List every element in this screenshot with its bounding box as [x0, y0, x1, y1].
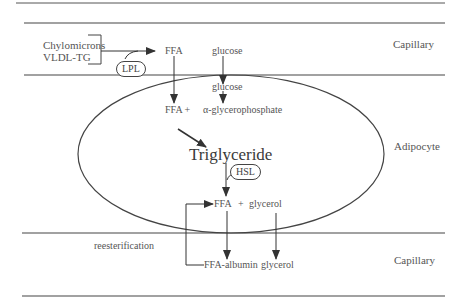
node-glycerol-released: glycerol: [249, 198, 282, 210]
node-ffa-capillary: FFA: [165, 45, 183, 57]
node-glycerol-out: glycerol: [261, 259, 294, 271]
source-chylomicrons: Chylomicrons: [43, 39, 105, 51]
node-glucose-capillary: glucose: [212, 45, 243, 57]
region-label-adipocyte: Adipocyte: [394, 140, 440, 152]
node-reesterification: reesterification: [94, 240, 154, 252]
region-label-capillary-top: Capillary: [393, 38, 434, 50]
reesterification-loop: [186, 204, 213, 265]
lpl-connector: [125, 51, 138, 59]
node-plus: +: [238, 198, 244, 210]
node-alpha-glycerophosphate: α-glycerophosphate: [203, 104, 282, 116]
enzyme-hsl: HSL: [230, 164, 261, 180]
source-vldl-tg: VLDL-TG: [43, 51, 91, 63]
node-ffa-plus: FFA +: [165, 104, 190, 116]
node-ffa-released: FFA: [214, 198, 232, 210]
node-ffa-albumin: FFA-albumin: [204, 259, 258, 271]
enzyme-lpl: LPL: [116, 61, 146, 77]
node-triglyceride: Triglyceride: [189, 145, 272, 165]
node-glucose-cell: glucose: [212, 81, 243, 93]
region-label-capillary-bottom: Capillary: [394, 254, 435, 266]
